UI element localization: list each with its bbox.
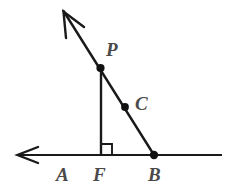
point-label-B: B: [148, 165, 161, 184]
point-label-P: P: [106, 40, 118, 59]
point-label-A: A: [56, 165, 69, 184]
point-label-C: C: [135, 94, 148, 113]
point-dot-B: [150, 151, 158, 159]
right-angle-marker-icon: [101, 144, 112, 155]
geometry-figure: extending both ways -->: [0, 0, 239, 192]
point-label-F: F: [93, 165, 106, 184]
ray-through-P-C-B: [64, 11, 155, 155]
point-dot-C: [121, 103, 129, 111]
point-dot-P: [96, 64, 104, 72]
diagram-canvas: extending both ways --> P C A F B: [0, 0, 239, 192]
